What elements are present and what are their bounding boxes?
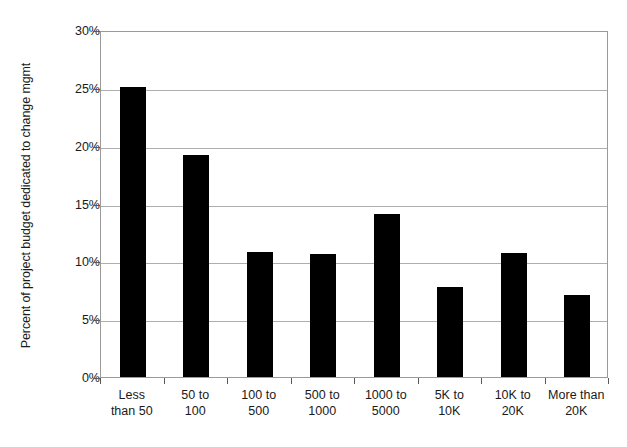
y-axis-tick-mark	[93, 320, 100, 321]
bar	[183, 155, 209, 377]
bar	[501, 253, 527, 377]
gridline	[101, 321, 607, 322]
y-axis-tick-mark	[93, 31, 100, 32]
bar	[374, 214, 400, 377]
x-axis-tick-mark	[291, 378, 292, 384]
x-axis-tick-mark	[608, 378, 609, 384]
gridline	[101, 263, 607, 264]
bar	[564, 295, 590, 377]
bar	[120, 87, 146, 377]
y-axis-tick-mark	[93, 205, 100, 206]
gridline	[101, 148, 607, 149]
gridline	[101, 206, 607, 207]
x-axis-tick-mark	[354, 378, 355, 384]
x-axis-tick-mark	[100, 378, 101, 384]
gridline	[101, 90, 607, 91]
x-axis-tick-label: More than 20K	[539, 387, 615, 419]
y-axis-tick-mark	[93, 89, 100, 90]
bar-chart: Percent of project budget dedicated to c…	[0, 0, 627, 447]
bar	[310, 254, 336, 377]
x-axis-tick-mark	[545, 378, 546, 384]
y-axis-tick-label: 15%	[48, 198, 100, 212]
y-axis-tick-mark	[93, 147, 100, 148]
x-axis: Less than 5050 to 100100 to 500500 to 10…	[100, 378, 608, 447]
y-axis-tick-label: 25%	[48, 82, 100, 96]
y-axis-tick-label: 20%	[48, 140, 100, 154]
y-axis-tick-label: 10%	[48, 255, 100, 269]
x-axis-tick-mark	[418, 378, 419, 384]
bar	[437, 287, 463, 377]
bar	[247, 252, 273, 377]
x-axis-tick-mark	[164, 378, 165, 384]
y-axis-tick-mark	[93, 378, 100, 379]
y-axis-tick-label: 0%	[48, 371, 100, 385]
plot-area	[100, 31, 608, 378]
y-axis-tick-mark	[93, 262, 100, 263]
x-axis-tick-mark	[481, 378, 482, 384]
y-axis-tick-label: 30%	[48, 24, 100, 38]
y-axis-title: Percent of project budget dedicated to c…	[16, 32, 36, 379]
y-axis-tick-label: 5%	[48, 313, 100, 327]
x-axis-tick-mark	[227, 378, 228, 384]
